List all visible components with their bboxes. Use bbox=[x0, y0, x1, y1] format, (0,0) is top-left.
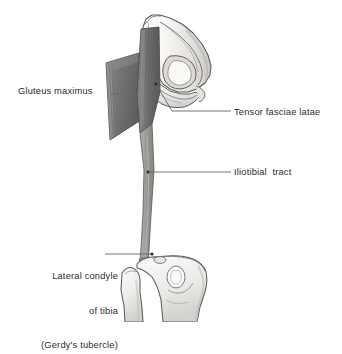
marker-dot-condyle bbox=[150, 252, 153, 255]
label-lateral-condyle: Lateral condyle of tibia (Gerdy's tuberc… bbox=[8, 248, 118, 354]
tensor-fasciae-latae-muscle bbox=[137, 27, 160, 133]
marker-dot-tract bbox=[147, 171, 150, 174]
label-lateral-condyle-line-3: (Gerdy's tubercle) bbox=[8, 340, 118, 352]
proximal-leg-bones bbox=[121, 256, 207, 322]
label-lateral-condyle-line-1: Lateral condyle bbox=[8, 271, 118, 283]
label-tensor-fasciae-latae: Tensor fasciae latae bbox=[234, 107, 320, 119]
label-lateral-condyle-line-2: of tibia bbox=[8, 306, 118, 318]
iliotibial-tract-band bbox=[138, 124, 154, 266]
label-gluteus-maximus: Gluteus maximus bbox=[18, 86, 93, 98]
marker-dot-tfl bbox=[155, 83, 158, 86]
gluteus-maximus-muscle bbox=[106, 53, 141, 140]
label-iliotibial-tract: Iliotibial tract bbox=[234, 167, 291, 179]
